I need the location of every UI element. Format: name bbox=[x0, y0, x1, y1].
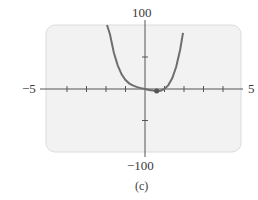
y-min-label: −100 bbox=[127, 159, 154, 172]
x-max-label: 5 bbox=[248, 82, 255, 95]
y-max-label: 100 bbox=[132, 6, 152, 19]
x-min-label: −5 bbox=[22, 82, 36, 95]
figure-caption: (c) bbox=[135, 180, 148, 192]
minimum-point-marker bbox=[154, 89, 159, 94]
